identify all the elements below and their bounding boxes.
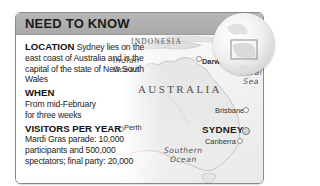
visitors-heading: VISITORS PER YEAR [25, 124, 153, 135]
info-panel: LOCATION Sydney lies on the east coast o… [25, 42, 153, 170]
globe-locator-icon [213, 13, 275, 75]
visitors-block: VISITORS PER YEAR Mardi Gras parade: 10,… [25, 124, 153, 167]
canberra-label: Canberra [205, 137, 236, 146]
sydney-marker [242, 127, 250, 135]
location-heading: LOCATION [25, 41, 74, 52]
ocean-label-line: Sea [240, 77, 262, 86]
when-text: From mid-February for three weeks [25, 99, 103, 121]
sydney-label: SYDNEY [202, 124, 244, 135]
globe-graphic [213, 13, 275, 75]
southern-ocean-label: Southern Ocean [164, 146, 203, 164]
brisbane-marker [243, 107, 249, 113]
canberra-marker [237, 138, 243, 144]
card-title: NEED TO KNOW [25, 16, 130, 31]
location-block: LOCATION Sydney lies on the east coast o… [25, 42, 153, 85]
ocean-label-line: Ocean [164, 155, 203, 164]
when-heading: WHEN [25, 88, 153, 99]
brisbane-label: Brisbane [215, 106, 244, 115]
visitors-text: Mardi Gras parade: 10,000 participants a… [25, 134, 153, 166]
ocean-label-line: Southern [164, 146, 203, 155]
when-block: WHEN From mid-February for three weeks [25, 88, 153, 120]
